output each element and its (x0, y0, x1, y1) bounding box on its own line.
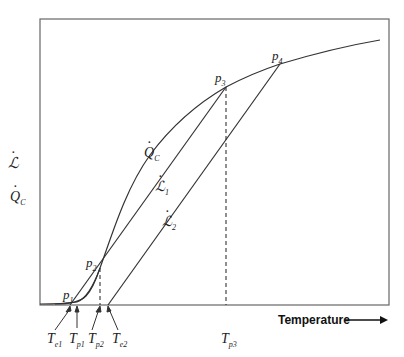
curve-label-l1-main: ℒ (155, 179, 165, 194)
temperature-arrow-head (380, 316, 388, 324)
tick-tp2-sub: p2 (96, 340, 104, 349)
point-p4-sub: 4 (279, 57, 283, 66)
point-p1: p1 (63, 288, 74, 305)
y-label-qc-sub: C (20, 198, 25, 207)
curve-label-l2-sub: 2 (172, 223, 176, 232)
tick-tp3-main: T (221, 331, 229, 346)
tick-te1-sub: e1 (55, 340, 63, 349)
y-label-l: ℒ (8, 155, 19, 171)
tick-te1-main: T (47, 331, 55, 346)
tick-tp1-sub: p1 (77, 340, 85, 349)
tick-tp2-main: T (88, 331, 96, 346)
tick-te2-main: T (112, 331, 120, 346)
point-p3: p3 (215, 71, 226, 88)
y-label-qc-main: Q (10, 189, 20, 204)
tick-tp3-sub: p3 (229, 340, 237, 349)
tick-te1: Te1 (47, 332, 62, 349)
diagram-canvas (0, 0, 404, 357)
curve-label-l1: ℒ1 (155, 180, 169, 197)
curve-label-l2: ℒ2 (162, 215, 176, 232)
point-p4: p4 (272, 49, 283, 66)
curve-label-qc-sub: C (154, 154, 159, 163)
curve-label-l1-sub: 1 (165, 188, 169, 197)
y-label-l-dot: ℒ (8, 156, 19, 171)
point-p3-sub: 3 (222, 79, 226, 88)
tick-tp2: Tp2 (88, 332, 104, 349)
x-axis-label: Temperature (278, 313, 350, 327)
point-p2-sub: 2 (93, 264, 97, 273)
curve-label-qc: QC (144, 146, 159, 163)
curve-label-l2-main: ℒ (162, 214, 172, 229)
tick-te2: Te2 (112, 332, 127, 349)
point-p1-sub: 1 (70, 296, 74, 305)
y-label-qc: QC (10, 190, 25, 207)
curve-label-qc-main: Q (144, 145, 154, 160)
tick-arrows (55, 306, 118, 330)
tick-tp3: Tp3 (221, 332, 237, 349)
tick-tp1: Tp1 (69, 332, 85, 349)
l2-line (108, 64, 280, 305)
tick-tp1-main: T (69, 331, 77, 346)
tick-te2-sub: e2 (120, 340, 128, 349)
point-p2: p2 (86, 256, 97, 273)
